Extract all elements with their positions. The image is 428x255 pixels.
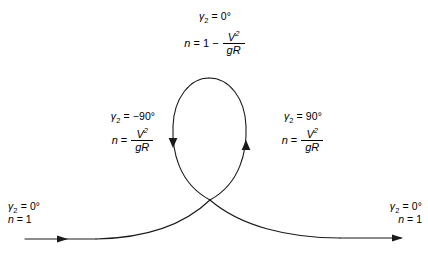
gamma-subscript: 2	[204, 16, 208, 25]
annotation-left-equation: n = V2 gR	[78, 128, 188, 153]
fraction: V2 gR	[131, 128, 153, 153]
gamma-subscript: 2	[116, 116, 120, 125]
n-operator: = 1 −	[193, 37, 218, 50]
loop-maneuver-diagram: γ2 = 0° n = 1 − V2 gR γ2 = −90° n =	[0, 0, 428, 255]
annotation-left: γ2 = −90° n = V2 gR	[78, 110, 188, 153]
n-label: n	[8, 213, 14, 225]
exit-path-curve	[210, 200, 340, 238]
annotation-top: γ2 = 0° n = 1 − V2 gR	[130, 10, 300, 56]
fraction-denominator: gR	[223, 44, 245, 56]
annotation-right: γ2 = 90° n = V2 gR	[248, 110, 358, 153]
n-label: n	[184, 37, 190, 50]
fraction: V2 gR	[223, 31, 245, 56]
annotation-exit-equation: n = 1	[336, 213, 422, 225]
n-value: = 1	[17, 213, 32, 225]
fraction-denominator: gR	[301, 141, 323, 153]
load-factor-expression: n = 1 − V2 gR	[184, 31, 245, 56]
annotation-exit-gamma: γ2 = 0°	[336, 200, 422, 212]
fraction-numerator: V2	[133, 128, 153, 140]
annotation-top-gamma: γ2 = 0°	[130, 10, 300, 22]
annotation-right-gamma: γ2 = 90°	[248, 110, 358, 122]
gamma-value: = 0°	[403, 200, 423, 212]
entry-path-curve	[96, 200, 210, 239]
load-factor-expression: n = V2 gR	[112, 128, 155, 153]
fraction-numerator: V2	[303, 128, 323, 140]
annotation-left-gamma: γ2 = −90°	[78, 110, 188, 122]
n-operator: =	[291, 134, 297, 147]
annotation-entry-equation: n = 1	[8, 213, 94, 225]
annotation-exit: γ2 = 0° n = 1	[336, 200, 422, 225]
gamma-value: = 0°	[212, 10, 232, 22]
fraction-numerator: V2	[224, 31, 244, 43]
n-operator: =	[121, 134, 127, 147]
numerator-exponent: 2	[235, 29, 239, 38]
annotation-entry: γ2 = 0° n = 1	[8, 200, 94, 225]
gamma-value: = −90°	[124, 110, 156, 122]
numerator-base: V	[307, 128, 314, 140]
gamma-value: = 90°	[297, 110, 322, 122]
annotation-entry-gamma: γ2 = 0°	[8, 200, 94, 212]
annotation-right-equation: n = V2 gR	[248, 128, 358, 153]
n-value: = 1	[407, 213, 422, 225]
load-factor-expression: n = V2 gR	[282, 128, 325, 153]
entry-arrowhead-icon	[57, 235, 68, 242]
fraction-denominator: gR	[131, 141, 153, 153]
exit-arrowhead-icon	[392, 234, 403, 241]
gamma-value: = 0°	[21, 200, 41, 212]
numerator-base: V	[137, 128, 144, 140]
numerator-exponent: 2	[314, 126, 318, 135]
loop-right-arc	[209, 78, 246, 200]
n-label: n	[112, 134, 118, 147]
gamma-subscript: 2	[289, 116, 293, 125]
annotation-top-equation: n = 1 − V2 gR	[130, 31, 300, 56]
n-label: n	[398, 213, 404, 225]
n-label: n	[282, 134, 288, 147]
numerator-exponent: 2	[144, 126, 148, 135]
fraction: V2 gR	[301, 128, 323, 153]
